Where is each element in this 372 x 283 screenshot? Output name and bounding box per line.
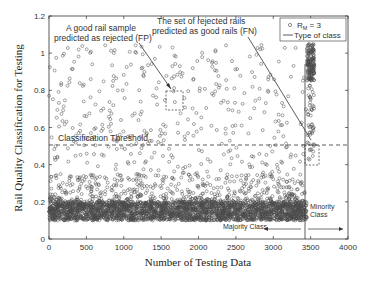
fn-annotation-line2: predicted as good rails (FN) [152, 26, 257, 36]
x-tick-label: 2000 [190, 243, 208, 252]
legend-label-type-of-class: Type of class [294, 31, 341, 40]
x-tick-label: 4000 [339, 243, 357, 252]
y-tick-label: 0.2 [34, 198, 46, 207]
y-axis-title: Rail Quality Classification for Testing [12, 44, 24, 212]
legend: RM = 3 Type of class [280, 18, 346, 41]
fp-annotation-line1: A good rail sample [66, 23, 136, 33]
y-tick-label: 0.8 [34, 86, 46, 95]
minority-arrow-head-icon [339, 227, 343, 231]
x-tick-label: 0 [47, 243, 52, 252]
x-tick-label: 1500 [152, 243, 170, 252]
y-tick-label: 0.6 [34, 124, 46, 133]
x-tick-label: 500 [80, 243, 94, 252]
fn-annotation-line1: The set of rejected rails [157, 16, 245, 26]
y-tick-label: 0 [41, 235, 46, 244]
x-axis-title: Number of Testing Data [145, 256, 251, 268]
x-tick-label: 3000 [264, 243, 282, 252]
fn-highlight-box [305, 145, 319, 165]
y-tick-label: 1 [41, 49, 46, 58]
x-tick-label: 1000 [115, 243, 133, 252]
scatter-chart: 05001000150020002500300035004000 00.20.4… [0, 0, 372, 283]
threshold-label: Classification Threshold [58, 133, 148, 143]
minority-class-label-line2: Class [310, 211, 328, 218]
minority-class-label-line1: Minority [310, 203, 335, 211]
fp-annotation-line2: predicted as rejected (FP) [54, 33, 152, 43]
legend-label-rm: RM = 3 [297, 21, 321, 31]
fn-line [248, 37, 311, 140]
y-tick-label: 0.4 [34, 161, 46, 170]
x-tick-label: 2500 [227, 243, 245, 252]
x-tick-label: 3500 [302, 243, 320, 252]
majority-class-label: Majority Class [223, 223, 267, 231]
fp-arrow [139, 43, 171, 89]
fp-arrow-head-icon [166, 83, 171, 89]
y-tick-label: 1.2 [34, 12, 46, 21]
